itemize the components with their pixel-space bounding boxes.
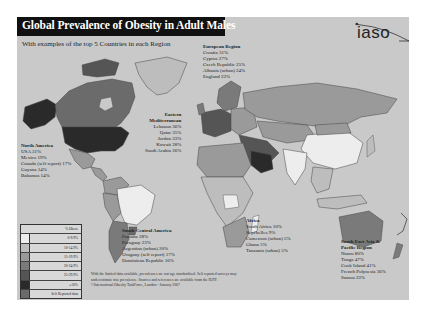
legend-label: 15-19.9%: [30, 253, 81, 261]
country-alaska: [23, 99, 57, 129]
legend-swatch: [21, 244, 30, 252]
western-europe: [201, 109, 233, 137]
country-usa: [62, 127, 129, 153]
region-europe: European Region Croatia 31% Cyprus 27% C…: [203, 44, 245, 80]
legend-swatch: [21, 234, 30, 242]
country-mongolia: [315, 123, 351, 135]
legend-label: 20-24.9%: [30, 262, 81, 270]
region-item: Saudi Arabia 26%: [145, 148, 181, 154]
arctic-islands: [82, 59, 119, 77]
central-america: [91, 167, 107, 181]
legend-item: 25-29.9%: [21, 271, 81, 280]
uk: [197, 103, 205, 115]
legend-label: 10-14.9%: [30, 244, 81, 252]
country-new-zealand: [393, 243, 403, 259]
region-eastern-mediterranean: Eastern Mediterranean Lebanon 36% Qatar …: [145, 112, 181, 154]
legend-title: % Obese: [21, 225, 81, 233]
legend-title-row: % Obese: [21, 225, 81, 234]
region-item: Tanzania (urban) 5%: [246, 248, 291, 254]
pacific-islands: [397, 213, 407, 235]
legend-swatch: [21, 290, 30, 298]
legend-swatch: [21, 271, 30, 279]
region-north-america: North America USA 31% Mexico 19% Canada …: [21, 143, 71, 179]
legend-swatch: [21, 253, 30, 261]
region-item: Dominican Republic 16%: [122, 258, 175, 264]
scandinavia: [217, 81, 241, 111]
legend-item: 0-9.9%: [21, 234, 81, 243]
legend-item: 15-19.9%: [21, 253, 81, 262]
legend-swatch: [21, 262, 30, 270]
region-south-east-asia-pacific: South East Asia & Pacific Region Nauru 8…: [341, 239, 386, 281]
map-panel: Global Prevalence of Obesity in Adult Ma…: [17, 17, 409, 300]
region-item: Bahamas 14%: [21, 173, 71, 179]
iaso-logo: iaso: [357, 23, 390, 43]
title-bar: Global Prevalence of Obesity in Adult Ma…: [17, 17, 225, 36]
legend-swatch: [21, 281, 30, 289]
region-south-central-america: South Central America Panama 28% Paragua…: [122, 228, 175, 264]
southeast-asia: [311, 167, 333, 193]
central-africa-light: [223, 195, 239, 209]
page-title: Global Prevalence of Obesity in Adult Ma…: [22, 19, 235, 31]
legend-item: Self Reported data: [21, 290, 81, 298]
country-japan: [367, 135, 375, 157]
legend-label: ≥30%: [30, 281, 81, 289]
legend-label: Self Reported data: [30, 290, 81, 298]
country-greenland: [135, 57, 187, 95]
subtitle: With examples of the top 5 Countries in …: [22, 40, 170, 48]
footnote: With the limited data available, prevale…: [91, 272, 311, 289]
north-africa: [197, 143, 251, 177]
country-india: [283, 149, 307, 185]
region-item: England 23%: [203, 74, 245, 80]
legend-label: 0-9.9%: [30, 234, 81, 242]
country-china: [301, 131, 363, 169]
country-brazil: [117, 185, 155, 225]
legend-item: 10-14.9%: [21, 244, 81, 253]
country-canada: [55, 79, 135, 129]
legend-item: ≥30%: [21, 281, 81, 290]
map-legend: % Obese 0-9.9% 10-14.9% 15-19.9% 20-24.9…: [20, 224, 82, 299]
legend-label: 25-29.9%: [30, 271, 81, 279]
region-africa: Africa South Africa 10% Seychelles 9% Ca…: [246, 218, 291, 254]
footnote-line: ©International Obesity TaskForce, London…: [91, 283, 311, 289]
region-item: Samoa 33%: [341, 275, 386, 281]
indonesia: [317, 195, 367, 209]
legend-item: 20-24.9%: [21, 262, 81, 271]
